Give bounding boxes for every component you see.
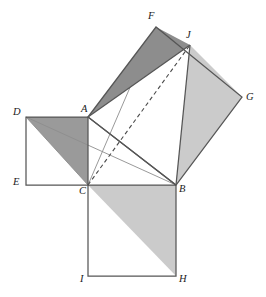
vertex-label-H: H (179, 274, 187, 285)
vertex-label-D: D (13, 107, 21, 118)
vertex-label-I: I (80, 274, 84, 285)
vertex-label-C: C (79, 186, 86, 197)
vertex-label-G: G (246, 92, 254, 103)
filled-regions (26, 27, 242, 276)
vertex-label-A: A (81, 104, 87, 115)
vertex-label-F: F (148, 11, 154, 22)
vertex-label-J: J (186, 30, 191, 41)
geometry-canvas (0, 0, 266, 297)
vertex-label-B: B (179, 184, 185, 195)
geometry-figure: F J G A D E C B I H (0, 0, 266, 297)
vertex-label-E: E (13, 177, 19, 188)
